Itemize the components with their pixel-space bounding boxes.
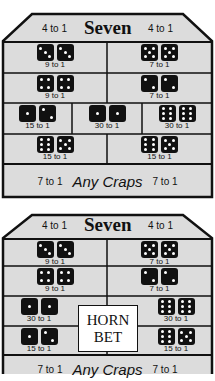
payout-odds: 9 to 1 [45,258,65,266]
payout-odds: 9 to 1 [45,285,65,293]
bet-hard-ten[interactable]: 7 to 1 [107,241,212,266]
any-craps-bet[interactable]: 7 to 1 Any Craps 7 to 1 [3,357,212,381]
dice-pair [21,328,58,345]
bet-hard-four[interactable]: 7 to 1 [107,268,212,293]
any-craps-odds-right: 7 to 1 [153,364,178,375]
die-face-5-icon [178,328,195,345]
die-face-2-icon [161,268,178,285]
dice-pair [158,328,195,345]
payout-odds: 30 to 1 [27,315,51,323]
seven-odds-left: 4 to 1 [42,220,67,231]
die-face-6-icon [158,328,175,345]
payout-odds: 7 to 1 [149,285,169,293]
horn-bet-button[interactable]: HORN BET [78,305,138,352]
payout-odds: 15 to 1 [164,345,188,353]
bet-aces[interactable]: 30 to 1 [3,298,75,323]
bet-twelve[interactable]: 30 to 1 [140,298,212,323]
payout-odds: 15 to 1 [27,345,51,353]
any-craps-odds-left: 7 to 1 [37,364,62,375]
die-face-2-icon [41,328,58,345]
die-face-3-icon [57,241,74,258]
dice-pair [37,241,74,258]
die-face-1-icon [21,298,38,315]
bet-ace-deuce[interactable]: 15 to 1 [3,328,75,353]
dice-pair [158,298,195,315]
dice-pair [37,268,74,285]
bet-hard-six[interactable]: 9 to 1 [3,241,107,266]
horn-bet-line2: BET [94,329,122,346]
horn-bet-line1: HORN [87,312,130,329]
seven-title: Seven [84,214,132,236]
seven-odds-right: 4 to 1 [148,220,173,231]
dice-pair [141,241,178,258]
die-face-1-icon [41,298,58,315]
die-face-4-icon [37,268,54,285]
dice-pair [21,298,58,315]
die-face-4-icon [57,268,74,285]
payout-odds: 30 to 1 [164,315,188,323]
die-face-6-icon [158,298,175,315]
bet-hard-eight[interactable]: 9 to 1 [3,268,107,293]
bet-yo-eleven[interactable]: 15 to 1 [140,328,212,353]
dice-pair [141,268,178,285]
die-face-5-icon [141,241,158,258]
any-craps-label: Any Craps [72,361,142,378]
die-face-6-icon [178,298,195,315]
payout-odds: 7 to 1 [149,258,169,266]
die-face-1-icon [21,328,38,345]
die-face-3-icon [37,241,54,258]
die-face-5-icon [161,241,178,258]
die-face-2-icon [141,268,158,285]
